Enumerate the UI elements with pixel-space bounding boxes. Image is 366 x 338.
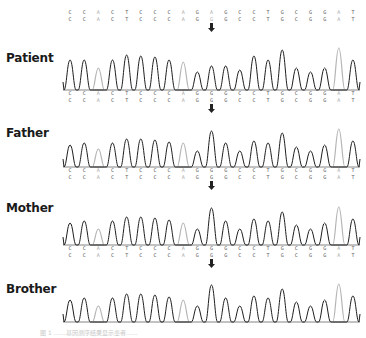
- reference-base: A: [97, 9, 100, 15]
- base-call: T: [125, 245, 128, 251]
- base-call: A: [337, 97, 340, 103]
- base-call: C: [69, 97, 72, 103]
- base-call: G: [224, 97, 227, 103]
- base-call: C: [153, 90, 156, 96]
- base-call: G: [309, 245, 312, 251]
- panel-label-brother: Brother: [6, 282, 56, 296]
- base-call: C: [252, 97, 255, 103]
- base-call: T: [125, 90, 128, 96]
- base-call: C: [153, 174, 156, 180]
- base-call: G: [309, 167, 312, 173]
- base-call: C: [153, 97, 156, 103]
- base-call: G: [210, 167, 213, 173]
- reference-base: C: [295, 9, 298, 15]
- base-call: C: [168, 97, 171, 103]
- base-call: G: [323, 174, 326, 180]
- base-call: G: [281, 90, 284, 96]
- base-call: G: [281, 245, 284, 251]
- base-call: C: [252, 167, 255, 173]
- base-call: A: [337, 90, 340, 96]
- base-call: C: [139, 174, 142, 180]
- base-call: C: [252, 174, 255, 180]
- base-call: G: [210, 245, 213, 251]
- down-arrow-icon: [208, 23, 215, 32]
- base-call: C: [238, 167, 241, 173]
- base-call: C: [153, 167, 156, 173]
- base-call: C: [252, 252, 255, 258]
- reference-base: C: [83, 16, 86, 22]
- base-call: C: [69, 252, 72, 258]
- reference-base: A: [182, 9, 185, 15]
- reference-base: G: [309, 9, 312, 15]
- reference-base: A: [97, 16, 100, 22]
- primary-trace: [63, 208, 360, 245]
- base-call: C: [295, 90, 298, 96]
- reference-base: C: [252, 16, 255, 22]
- base-call: C: [69, 245, 72, 251]
- figure-caption: 图 1 ……基因测序结果显示患者……: [40, 328, 340, 337]
- base-call: G: [224, 245, 227, 251]
- base-call: G: [323, 245, 326, 251]
- base-call: A: [337, 252, 340, 258]
- down-arrow-icon: [208, 181, 215, 190]
- base-call: C: [295, 245, 298, 251]
- reference-base: G: [196, 9, 199, 15]
- base-call: C: [168, 252, 171, 258]
- reference-base: C: [153, 16, 156, 22]
- base-call: G: [210, 174, 213, 180]
- base-call: C: [111, 174, 114, 180]
- reference-base: C: [83, 9, 86, 15]
- base-call: A: [337, 245, 340, 251]
- base-call: T: [125, 252, 128, 258]
- base-call: C: [238, 97, 241, 103]
- reference-base: A: [182, 16, 185, 22]
- base-call: C: [252, 90, 255, 96]
- base-call: T: [351, 97, 354, 103]
- down-arrow-icon: [208, 104, 215, 113]
- base-call: T: [267, 245, 270, 251]
- base-call: T: [125, 97, 128, 103]
- base-call: G: [224, 252, 227, 258]
- base-call: A: [182, 167, 185, 173]
- reference-base: G: [309, 16, 312, 22]
- base-call: T: [267, 97, 270, 103]
- reference-base: G: [281, 16, 284, 22]
- base-call: A: [182, 90, 185, 96]
- base-call: C: [69, 174, 72, 180]
- base-call: G: [323, 167, 326, 173]
- reference-base: C: [153, 9, 156, 15]
- base-call: A: [97, 90, 100, 96]
- base-call: C: [168, 245, 171, 251]
- base-call: G: [281, 167, 284, 173]
- base-call: C: [238, 252, 241, 258]
- base-call: G: [309, 252, 312, 258]
- base-call: T: [267, 174, 270, 180]
- base-call: G: [196, 97, 199, 103]
- reference-base: C: [252, 9, 255, 15]
- base-call: C: [295, 97, 298, 103]
- base-call: T: [351, 167, 354, 173]
- base-call: C: [168, 167, 171, 173]
- base-call: C: [111, 97, 114, 103]
- panel-label-mother: Mother: [6, 201, 53, 215]
- primary-trace: [63, 285, 360, 322]
- base-call: T: [267, 90, 270, 96]
- reference-base: T: [125, 16, 128, 22]
- base-call: T: [351, 245, 354, 251]
- reference-base: T: [351, 16, 354, 22]
- base-call: G: [281, 174, 284, 180]
- base-call: C: [111, 90, 114, 96]
- base-call: G: [210, 97, 213, 103]
- base-call: C: [168, 174, 171, 180]
- reference-base: G: [224, 9, 227, 15]
- reference-base: G: [323, 9, 326, 15]
- base-call: G: [196, 90, 199, 96]
- reference-base: C: [168, 16, 171, 22]
- base-call: T: [125, 167, 128, 173]
- reference-base: T: [267, 9, 270, 15]
- base-call: C: [139, 245, 142, 251]
- reference-base: C: [69, 9, 72, 15]
- base-call: T: [351, 252, 354, 258]
- reference-base: T: [125, 9, 128, 15]
- reference-base: C: [295, 16, 298, 22]
